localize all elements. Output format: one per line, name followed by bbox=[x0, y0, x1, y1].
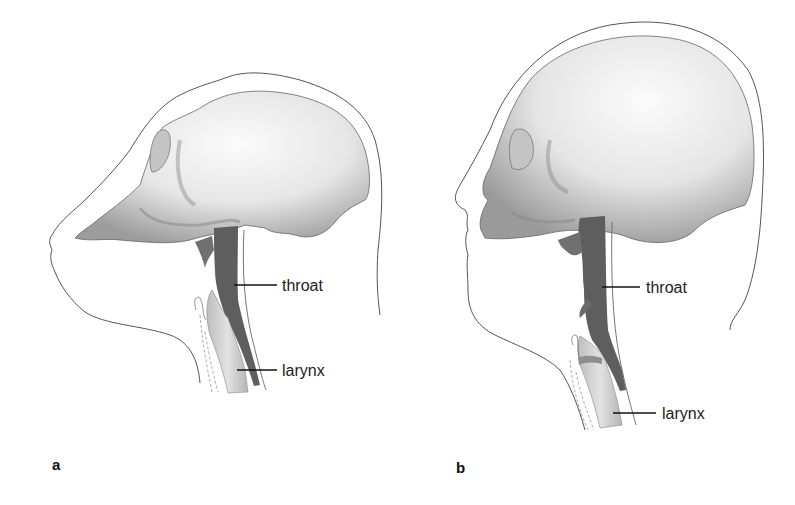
throat-label-a: throat bbox=[282, 277, 323, 294]
eye-socket-b bbox=[509, 129, 533, 169]
panel-letter-b: b bbox=[456, 459, 465, 476]
comparative-anatomy-diagram: throat larynx a throat larynx b bbox=[0, 0, 795, 505]
larynx-label-a: larynx bbox=[282, 362, 325, 379]
soft-palate-a bbox=[195, 236, 214, 268]
larynx-label-b: larynx bbox=[662, 405, 705, 422]
panel-a: throat larynx a bbox=[50, 73, 382, 473]
soft-palate-b bbox=[558, 232, 582, 255]
panel-letter-a: a bbox=[52, 456, 61, 473]
panel-b: throat larynx b bbox=[455, 22, 763, 476]
throat-label-b: throat bbox=[646, 279, 687, 296]
